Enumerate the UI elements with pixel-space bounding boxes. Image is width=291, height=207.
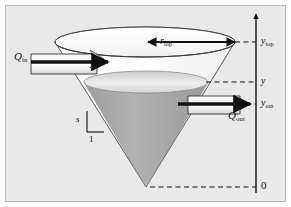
- label-slope-run: 1: [89, 135, 94, 144]
- conical-tank-figure: ytop y yout 0 Qin Qout rtop s 1: [0, 0, 291, 207]
- label-y-out: yout: [261, 98, 274, 108]
- inlet-pipe: [31, 50, 108, 74]
- liquid-volume: [84, 71, 208, 187]
- label-slope-rise: s: [76, 115, 80, 124]
- label-y-level: y: [261, 76, 265, 86]
- label-q-in: Qin: [14, 51, 27, 62]
- diagram-canvas: [0, 0, 291, 207]
- label-y-top: ytop: [261, 36, 274, 46]
- label-zero: 0: [261, 180, 267, 191]
- label-r-top: rtop: [160, 36, 172, 46]
- inlet-pipe-body: [31, 54, 97, 74]
- liquid-surface-ellipse: [84, 71, 208, 93]
- label-q-out: Qout: [228, 110, 245, 121]
